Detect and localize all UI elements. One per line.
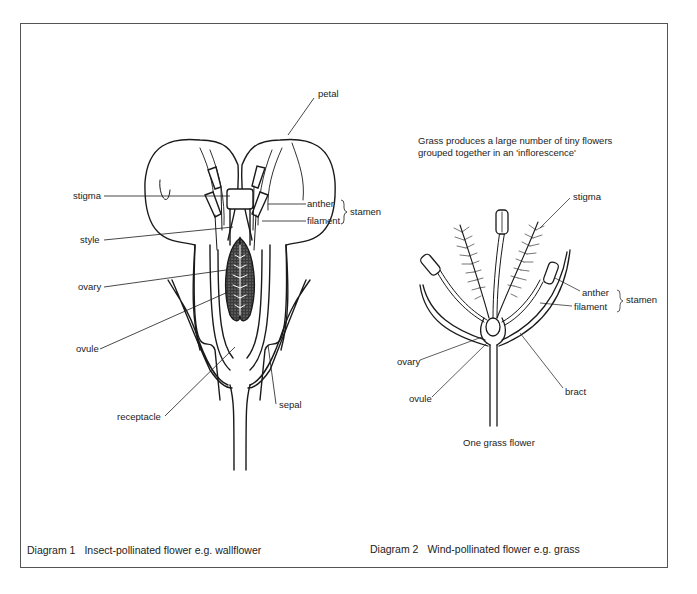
grass-label-stamen: stamen bbox=[626, 295, 657, 305]
diagram2-caption: Diagram 2Wind-pollinated flower e.g. gra… bbox=[370, 543, 580, 555]
grass-label-stigma: stigma bbox=[573, 192, 601, 202]
grass-anther-left bbox=[419, 253, 442, 277]
grass-subcaption: One grass flower bbox=[463, 438, 535, 448]
grass-note-line-2: grouped together in an 'inflorescence' bbox=[418, 147, 612, 159]
stem bbox=[230, 385, 250, 470]
grass-note-line-1: Grass produces a large number of tiny fl… bbox=[418, 135, 612, 147]
feathery-stigma-right bbox=[497, 222, 538, 318]
bract-right bbox=[499, 250, 570, 346]
grass-note: Grass produces a large number of tiny fl… bbox=[418, 135, 612, 159]
diagram2-caption-number: Diagram 2 bbox=[370, 543, 418, 555]
anther-right-1 bbox=[252, 192, 268, 217]
label-receptacle: receptacle bbox=[117, 412, 161, 422]
wallflower-diagram bbox=[145, 139, 335, 470]
grass-label-bract: bract bbox=[565, 387, 586, 397]
stigma bbox=[227, 189, 253, 209]
left-petal bbox=[145, 139, 238, 400]
grass-label-filament: filament bbox=[574, 302, 607, 312]
label-stamen: stamen bbox=[350, 207, 381, 217]
label-stigma: stigma bbox=[73, 191, 101, 201]
label-anther: anther bbox=[307, 199, 334, 209]
label-sepal: sepal bbox=[279, 400, 302, 410]
diagram1-caption-number: Diagram 1 bbox=[27, 544, 75, 556]
grass-stem bbox=[490, 345, 497, 426]
feathery-stigma-left bbox=[460, 225, 489, 318]
grass-ovary bbox=[486, 318, 500, 336]
label-petal: petal bbox=[318, 89, 339, 99]
grass-flower-diagram bbox=[419, 210, 570, 426]
bract-left bbox=[420, 285, 488, 346]
grass-label-ovule: ovule bbox=[409, 394, 432, 404]
diagram1-caption-text: Insect-pollinated flower e.g. wallflower bbox=[84, 544, 261, 556]
diagram1-caption: Diagram 1Insect-pollinated flower e.g. w… bbox=[27, 544, 261, 556]
label-ovary: ovary bbox=[78, 282, 101, 292]
diagram2-caption-text: Wind-pollinated flower e.g. grass bbox=[427, 543, 579, 555]
grass-label-anther: anther bbox=[582, 288, 609, 298]
grass-label-ovary: ovary bbox=[397, 357, 420, 367]
label-style: style bbox=[80, 235, 100, 245]
grass-anther-right bbox=[543, 261, 560, 285]
ovary bbox=[226, 238, 240, 321]
label-filament: filament bbox=[307, 216, 340, 226]
label-ovule: ovule bbox=[76, 344, 99, 354]
anther-left-2 bbox=[208, 167, 221, 189]
